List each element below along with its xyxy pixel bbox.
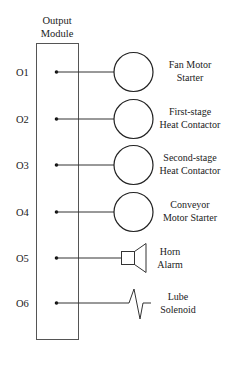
output-row-o2: O2 First-stage Heat Contactor [16, 100, 221, 139]
output-terminal-label: O3 [16, 160, 29, 171]
device-label-line2: Motor Starter [163, 212, 218, 223]
output-row-o6: O6 Lube Solenoid [16, 289, 196, 319]
device-label-line1: Conveyor [170, 199, 210, 210]
device-label-line2: Alarm [157, 259, 183, 270]
horn-icon [122, 244, 147, 273]
coil-icon [114, 53, 153, 92]
output-terminal-label: O6 [16, 298, 29, 309]
coil-icon [114, 100, 153, 139]
device-label-line1: Lube [168, 291, 189, 302]
output-module-box [37, 44, 79, 340]
device-label-line1: Second-stage [163, 152, 217, 163]
device-label-line2: Heat Contactor [160, 119, 221, 130]
module-title-line1: Output [42, 15, 71, 26]
module-title-line2: Module [41, 28, 74, 39]
output-row-o3: O3 Second-stage Heat Contactor [16, 146, 221, 185]
output-terminal-label: O4 [16, 207, 30, 218]
device-label-line1: Horn [160, 246, 181, 257]
output-row-o5: O5 Horn Alarm [16, 244, 183, 273]
device-label-line2: Heat Contactor [160, 165, 221, 176]
solenoid-icon [57, 289, 152, 319]
output-terminal-label: O1 [16, 67, 29, 78]
coil-icon [114, 193, 153, 232]
output-module-wiring-diagram: Output Module O1 Fan Motor Starter O2 Fi… [0, 0, 232, 367]
device-label-line2: Starter [177, 72, 204, 83]
device-label-line1: First-stage [169, 106, 212, 117]
output-row-o4: O4 Conveyor Motor Starter [16, 193, 218, 232]
output-terminal-label: O2 [16, 114, 29, 125]
device-label-line2: Solenoid [160, 304, 196, 315]
output-row-o1: O1 Fan Motor Starter [16, 53, 212, 92]
output-terminal-label: O5 [16, 253, 29, 264]
coil-icon [114, 146, 153, 185]
device-label-line1: Fan Motor [169, 59, 212, 70]
